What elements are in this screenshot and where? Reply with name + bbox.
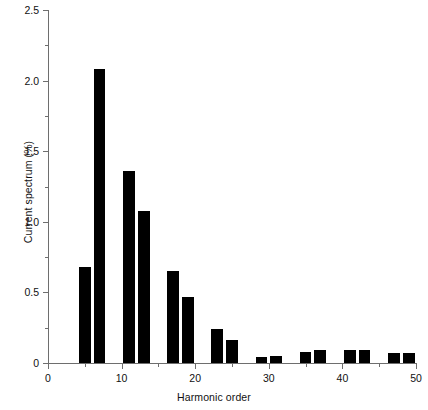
bar-harmonic-7: [94, 69, 106, 363]
bar-harmonic-25: [226, 340, 238, 363]
y-tick-major: [43, 81, 48, 82]
bar-harmonic-49: [403, 353, 415, 363]
bar-harmonic-43: [359, 350, 371, 363]
bar-harmonic-5: [79, 267, 91, 363]
x-tick-label: 10: [116, 372, 128, 384]
bar-harmonic-31: [270, 356, 282, 363]
y-tick-label: 0: [33, 357, 39, 369]
x-tick-label: 40: [337, 372, 349, 384]
x-tick-major: [48, 364, 49, 369]
y-tick-label: 2.0: [24, 75, 39, 87]
x-tick-major: [416, 364, 417, 369]
y-tick-minor: [45, 45, 48, 46]
x-tick-major: [269, 364, 270, 369]
x-tick-label: 50: [410, 372, 422, 384]
x-tick-major: [122, 364, 123, 369]
bar-harmonic-13: [138, 211, 150, 363]
bar-harmonic-11: [123, 171, 135, 363]
bar-harmonic-41: [344, 350, 356, 363]
y-tick-minor: [45, 116, 48, 117]
x-tick-minor: [85, 364, 86, 367]
y-tick-major: [43, 292, 48, 293]
x-tick-minor: [379, 364, 380, 367]
y-tick-label: 0.5: [24, 286, 39, 298]
y-tick-label: 2.5: [24, 4, 39, 16]
x-tick-major: [342, 364, 343, 369]
x-tick-minor: [158, 364, 159, 367]
bar-harmonic-35: [300, 352, 312, 363]
bar-harmonic-19: [182, 297, 194, 363]
y-tick-major: [43, 10, 48, 11]
y-tick-label: 1.5: [24, 145, 39, 157]
bar-harmonic-23: [211, 329, 223, 363]
harmonic-spectrum-chart: Current spectrum (%) Harmonic order 00.5…: [0, 0, 428, 410]
y-tick-major: [43, 151, 48, 152]
x-tick-minor: [306, 364, 307, 367]
x-tick-label: 30: [263, 372, 275, 384]
x-axis-label: Harmonic order: [0, 391, 428, 403]
x-tick-major: [195, 364, 196, 369]
x-tick-label: 0: [45, 372, 51, 384]
y-tick-label: 1.0: [24, 216, 39, 228]
y-tick-minor: [45, 328, 48, 329]
bar-harmonic-37: [314, 350, 326, 363]
bar-harmonic-17: [167, 271, 179, 363]
y-tick-major: [43, 222, 48, 223]
x-tick-minor: [232, 364, 233, 367]
bar-harmonic-47: [388, 353, 400, 363]
y-tick-minor: [45, 187, 48, 188]
y-axis-label: Current spectrum (%): [22, 92, 34, 292]
y-axis-line: [48, 10, 49, 364]
bar-harmonic-29: [256, 357, 268, 363]
x-tick-label: 20: [189, 372, 201, 384]
y-tick-minor: [45, 257, 48, 258]
